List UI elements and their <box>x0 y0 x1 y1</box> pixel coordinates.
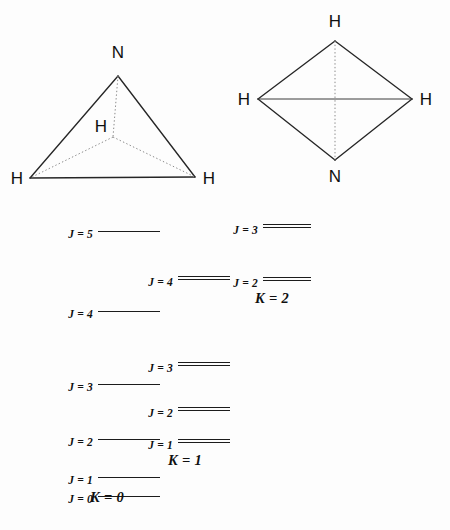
energy-level-label: J = 3 <box>233 224 258 236</box>
energy-level-line <box>178 365 230 366</box>
energy-level-line-group <box>178 362 230 366</box>
k-quantum-number-label: K = 1 <box>168 452 202 469</box>
energy-level-line-group <box>178 439 230 443</box>
energy-level-line <box>178 442 230 443</box>
figure-canvas: N H H H H H H N J = 5J = 4J = 3J = 2J = … <box>0 0 450 530</box>
energy-level-line <box>98 384 160 385</box>
rotational-energy-level-diagram: J = 5J = 4J = 3J = 2J = 1J = 0K = 0J = 4… <box>0 0 450 530</box>
energy-level-line <box>178 410 230 411</box>
energy-level-label: J = 1 <box>68 474 93 486</box>
energy-level-line <box>98 477 160 478</box>
energy-level-line <box>98 231 160 232</box>
energy-level-label: J = 4 <box>148 276 173 288</box>
k-quantum-number-label: K = 0 <box>90 489 124 506</box>
energy-level-label: J = 1 <box>148 439 173 451</box>
energy-level-line-group <box>98 311 160 312</box>
energy-level-line <box>263 280 311 281</box>
energy-level-label: J = 3 <box>148 362 173 374</box>
energy-level-line-group <box>263 277 311 281</box>
energy-level-line <box>178 279 230 280</box>
energy-level-line-group <box>98 384 160 385</box>
energy-level-label: J = 2 <box>68 436 93 448</box>
energy-level-label: J = 5 <box>68 228 93 240</box>
energy-level-label: J = 2 <box>233 277 258 289</box>
energy-level-line <box>178 439 230 440</box>
energy-level-label: J = 2 <box>148 407 173 419</box>
energy-level-line-group <box>98 231 160 232</box>
energy-level-line <box>178 407 230 408</box>
energy-level-line-group <box>178 407 230 411</box>
energy-level-line <box>263 277 311 278</box>
energy-level-line <box>263 224 311 225</box>
energy-level-line <box>263 227 311 228</box>
energy-level-line-group <box>263 224 311 228</box>
energy-level-line-group <box>178 276 230 280</box>
energy-level-label: J = 4 <box>68 308 93 320</box>
k-quantum-number-label: K = 2 <box>255 290 289 307</box>
energy-level-line-group <box>98 477 160 478</box>
energy-level-line <box>178 276 230 277</box>
energy-level-line <box>178 362 230 363</box>
energy-level-line <box>98 311 160 312</box>
energy-level-label: J = 3 <box>68 381 93 393</box>
